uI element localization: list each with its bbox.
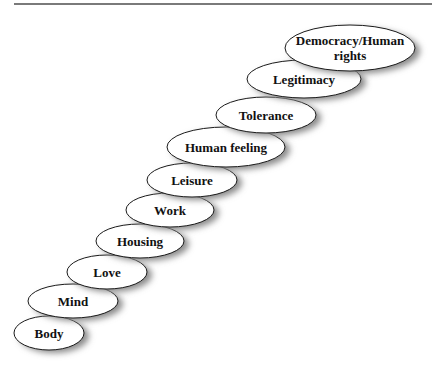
step-label: Leisure — [171, 173, 213, 188]
step-label: Tolerance — [239, 108, 294, 123]
step-label: Legitimacy — [273, 72, 336, 87]
staircase-diagram: BodyMindLoveHousingWorkLeisureHuman feel… — [0, 0, 439, 373]
step-label: Mind — [58, 294, 89, 309]
step-label: Human feeling — [185, 140, 267, 155]
step-label: Democracy/Human — [296, 33, 405, 48]
step-body: Body — [14, 316, 89, 353]
step-label: Body — [35, 326, 64, 341]
step-label: Love — [93, 265, 121, 280]
step-label: rights — [334, 48, 367, 63]
step-label: Work — [154, 203, 187, 218]
step-label: Housing — [117, 234, 164, 249]
